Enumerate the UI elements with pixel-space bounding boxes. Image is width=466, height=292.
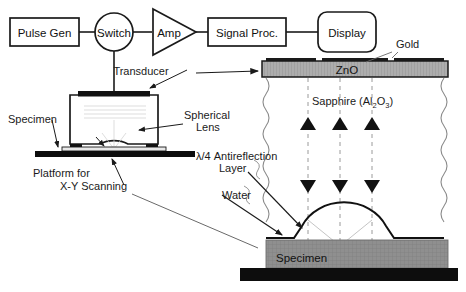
right-platform-bar [240,268,458,281]
label-spherical-lens-line1: Spherical [184,109,230,121]
scanning-platform-bar [35,151,195,157]
left-specimen-sheet [62,147,166,151]
magnify-arrow-top [196,71,258,73]
label-antireflection-line1: λ/4 Antireflection [196,150,277,162]
ray-triangles-down [300,180,380,193]
block-display-label: Display [328,27,366,39]
transducer-strip [78,91,150,97]
label-sapphire: Sapphire (Al2O3) [312,95,393,110]
label-gold: Gold [396,38,419,50]
label-specimen-right: Specimen [276,252,327,264]
label-spherical-lens-line2: Lens [196,121,220,133]
block-signal-proc-label: Signal Proc. [216,27,278,39]
label-platform-line1: Platform for [33,167,90,179]
sapphire-break-right [441,78,447,222]
figure-canvas: Pulse Gen Switch Amp Signal Proc. Displa… [0,0,466,292]
label-antireflection-line2: Layer [219,162,247,174]
block-switch-label: Switch [97,27,131,39]
spherical-cavity-boundary [266,202,444,238]
magnify-arrow-bottom [132,194,258,248]
label-zno: ZnO [336,64,358,76]
label-transducer: Transducer [113,65,169,77]
label-water: Water [222,189,251,201]
label-platform-line2: X-Y Scanning [60,180,127,192]
block-pulse-gen-label: Pulse Gen [18,27,72,39]
block-amp-label: Amp [157,27,181,39]
ray-triangles-up [300,117,380,130]
right-panel-leaders [222,172,302,235]
acoustic-microscope-diagram: Pulse Gen Switch Amp Signal Proc. Displa… [0,0,466,292]
label-specimen-left: Specimen [8,113,57,125]
